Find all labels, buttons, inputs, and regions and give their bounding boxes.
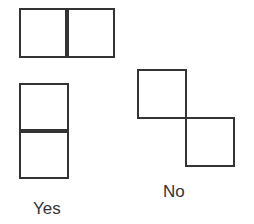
square [19,129,69,179]
no-label: No [163,182,185,202]
square [65,8,115,58]
square [19,83,69,133]
square [137,69,187,119]
yes-label: Yes [33,199,61,219]
square [185,117,235,167]
square [19,8,69,58]
